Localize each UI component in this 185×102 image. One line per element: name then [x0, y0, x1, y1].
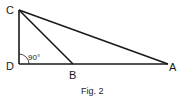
vertex-label-C: C — [6, 4, 14, 16]
vertex-label-B: B — [69, 69, 76, 81]
angle-label: 90° — [28, 53, 40, 62]
vertex-label-D: D — [6, 60, 14, 72]
triangle-lines — [19, 10, 168, 64]
triangle-diagram: C D B A 90° Fig. 2 — [0, 0, 185, 102]
segment-CA — [19, 10, 168, 64]
vertex-label-A: A — [169, 61, 177, 73]
figure-caption: Fig. 2 — [81, 86, 104, 96]
